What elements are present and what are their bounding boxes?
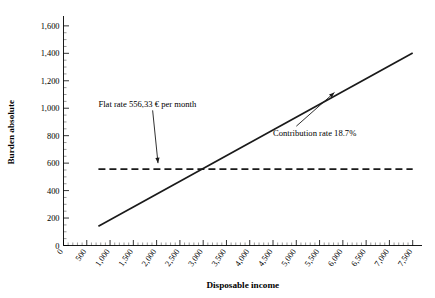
- x-axis-tick-label: 3,500: [210, 247, 228, 268]
- x-axis-tick-label: 2,000: [140, 247, 158, 268]
- x-axis-tick-label: 6,500: [350, 247, 368, 268]
- x-axis-tick-label: 2,500: [163, 247, 181, 268]
- x-axis-tick-label: 500: [74, 247, 89, 262]
- x-axis-tick-label: 7,000: [373, 247, 391, 268]
- y-axis-tick-label: 200: [47, 214, 60, 223]
- y-axis-tick-label: 1,000: [41, 104, 60, 113]
- annotation-leader-contribution-rate: [296, 92, 334, 126]
- y-axis-title: Burden absolute: [6, 100, 16, 165]
- chart-plot: 02004006008001,0001,2001,4001,60005001,0…: [0, 0, 435, 298]
- y-axis-tick-label: 800: [47, 132, 60, 141]
- x-axis-tick-label: 0: [55, 247, 65, 256]
- chart-container: 02004006008001,0001,2001,4001,60005001,0…: [0, 0, 435, 298]
- y-axis-tick-label: 600: [47, 159, 60, 168]
- x-axis-tick-label: 6,000: [326, 247, 344, 268]
- x-axis-tick-label: 5,500: [303, 247, 321, 268]
- annotation-leader-flat-rate: [153, 110, 158, 163]
- x-axis-tick-label: 4,000: [233, 247, 251, 268]
- series-line-contribution-rate: [98, 53, 412, 226]
- annotation-label-flat-rate: Flat rate 556,33 € per month: [98, 99, 197, 109]
- x-axis-tick-label: 1,000: [94, 247, 112, 268]
- annotation-arrow-flat-rate: [155, 158, 159, 164]
- x-axis-tick-label: 4,500: [256, 247, 274, 268]
- y-axis-tick-label: 1,400: [41, 49, 60, 58]
- x-axis-title: Disposable income: [206, 280, 279, 290]
- x-axis-tick-label: 5,000: [280, 247, 298, 268]
- y-axis-tick-label: 1,200: [41, 77, 60, 86]
- annotation-label-contribution-rate: Contribution rate 18.7%: [273, 128, 356, 138]
- x-axis-tick-label: 7,500: [396, 247, 414, 268]
- x-axis-tick-label: 1,500: [117, 247, 135, 268]
- x-axis-tick-label: 3,000: [187, 247, 205, 268]
- y-axis-tick-label: 400: [47, 187, 60, 196]
- y-axis-tick-label: 1,600: [41, 22, 60, 31]
